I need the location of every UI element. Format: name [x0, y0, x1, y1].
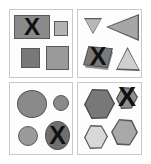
small-down-triangle: [84, 18, 102, 34]
large-rectangle-marked: [14, 15, 50, 39]
shape-grid-figure: X X X: [0, 0, 151, 164]
small-square-right: [54, 21, 68, 36]
small-circle-left: [18, 126, 38, 146]
large-hexagon: [84, 89, 115, 119]
rhombus-marked: [83, 46, 113, 68]
large-circle: [17, 90, 47, 118]
hexagons-panel: X: [77, 82, 142, 155]
small-hexagon-marked: [116, 87, 138, 109]
small-square-bottom-left: [21, 48, 40, 68]
triangles-panel: X: [77, 9, 142, 78]
circles-panel: X: [9, 82, 73, 155]
up-triangle: [116, 47, 140, 71]
medium-hexagon: [111, 119, 138, 146]
small-circle-right: [53, 95, 69, 111]
ellipse-marked: [45, 121, 70, 150]
pale-hexagon: [84, 125, 108, 149]
rectangles-panel: X: [9, 9, 73, 78]
medium-square-bottom-right: [46, 46, 69, 70]
large-left-triangle: [106, 14, 139, 42]
